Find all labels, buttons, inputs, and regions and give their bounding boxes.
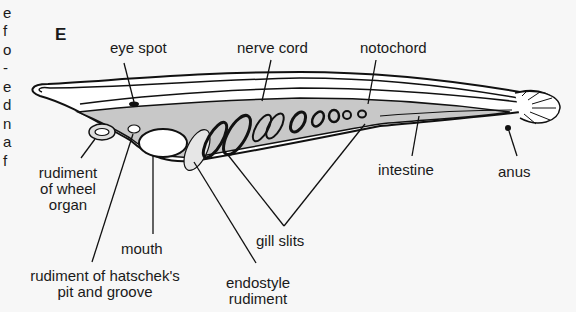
eye-spot-mark: [129, 102, 139, 107]
label-line: endostyle: [218, 275, 298, 291]
tail-fin: [515, 91, 560, 123]
anus-mark: [505, 125, 511, 131]
label-gill-slits: gill slits: [256, 233, 304, 249]
label-rudiment-hatschek: rudiment of hatschek's pit and groove: [4, 268, 206, 300]
label-intestine: intestine: [378, 162, 434, 178]
label-line: pit and groove: [4, 284, 206, 300]
label-line: of wheel: [28, 181, 108, 197]
label-anus: anus: [498, 164, 531, 180]
label-line: organ: [28, 197, 108, 213]
label-notochord: notochord: [360, 40, 427, 56]
label-mouth: mouth: [121, 241, 163, 257]
hatschek-pit: [128, 125, 140, 133]
label-endostyle-rudiment: endostyle rudiment: [218, 275, 298, 307]
label-line: rudiment of hatschek's: [4, 268, 206, 284]
label-line: rudiment: [218, 291, 298, 307]
label-rudiment-wheel-organ: rudiment of wheel organ: [28, 165, 108, 213]
mouth-opening: [139, 129, 187, 157]
label-line: rudiment: [28, 165, 108, 181]
label-eye-spot: eye spot: [110, 40, 167, 56]
label-nerve-cord: nerve cord: [237, 40, 308, 56]
